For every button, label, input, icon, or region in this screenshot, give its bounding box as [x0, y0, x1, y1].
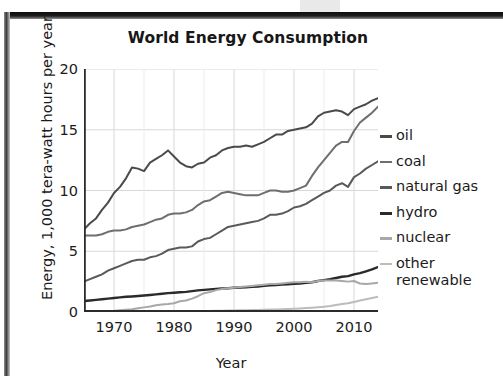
plot-area: 05101520 19701980199020002010 [84, 69, 378, 312]
legend-label: natural gas [396, 178, 478, 195]
x-tick-label: 1980 [156, 319, 193, 335]
legend-line-swatch-icon [380, 237, 392, 240]
legend-label: hydro [396, 204, 438, 221]
legend-label: coal [396, 153, 426, 170]
x-tick-label: 1970 [96, 319, 133, 335]
y-tick-label: 5 [69, 243, 78, 259]
scan-border-top [0, 12, 503, 19]
y-tick-label: 15 [60, 121, 78, 137]
legend-item-hydro[interactable]: hydro [380, 204, 503, 221]
legend-line-swatch-icon [380, 135, 392, 138]
scan-notch [300, 0, 340, 12]
y-tick-label: 10 [60, 182, 78, 198]
legend-label: other renewable [396, 255, 470, 289]
page-margin-top [0, 0, 503, 12]
legend-line-swatch-icon [380, 263, 392, 266]
x-tick-label: 1990 [216, 319, 253, 335]
legend-item-other-renewable[interactable]: other renewable [380, 255, 503, 289]
legend-line-swatch-icon [380, 186, 392, 189]
legend-item-natural-gas[interactable]: natural gas [380, 178, 503, 195]
legend-line-swatch-icon [380, 161, 392, 164]
x-tick-label: 2010 [336, 319, 373, 335]
x-axis-label: Year [84, 355, 378, 371]
legend-line-swatch-icon [380, 212, 392, 215]
chart-title: World Energy Consumption [108, 29, 388, 47]
figure-area: World Energy Consumption Energy, 1,000 t… [10, 19, 503, 376]
x-tick-label: 2000 [276, 319, 313, 335]
legend-label: oil [396, 127, 413, 144]
legend-label: nuclear [396, 229, 450, 246]
line-chart-svg [84, 69, 378, 312]
series-line-natural-gas [84, 161, 378, 281]
chart-legend: oilcoalnatural gashydronuclearother rene… [380, 127, 503, 297]
legend-item-oil[interactable]: oil [380, 127, 503, 144]
y-tick-label: 0 [69, 304, 78, 320]
legend-item-nuclear[interactable]: nuclear [380, 229, 503, 246]
legend-item-coal[interactable]: coal [380, 153, 503, 170]
y-axis-label: Energy, 1,000 tera-watt hours per year [39, 50, 55, 300]
series-line-oil [84, 98, 378, 229]
scanned-page: World Energy Consumption Energy, 1,000 t… [0, 0, 503, 376]
y-tick-label: 20 [60, 61, 78, 77]
series-line-coal [84, 107, 378, 236]
series-line-hydro [84, 267, 378, 301]
